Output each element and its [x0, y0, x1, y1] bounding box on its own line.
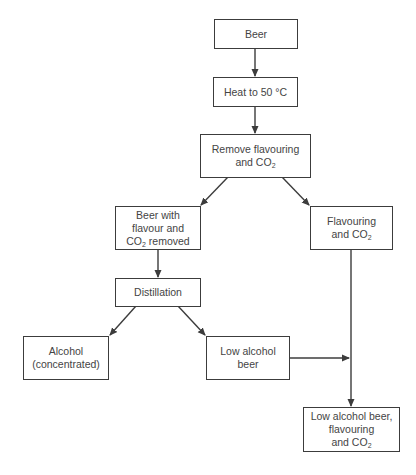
node-alcohol: Alcohol (concentrated) [23, 336, 109, 380]
node-final-line1: Low alcohol beer, [311, 410, 393, 423]
node-beer-removed-line3: CO2 removed [126, 235, 189, 248]
node-beer: Beer [214, 19, 298, 49]
node-flavouring: Flavouring and CO2 [310, 206, 393, 250]
node-remove-line2: and CO2 [212, 156, 300, 169]
node-heat: Heat to 50 °C [213, 77, 298, 107]
node-remove-line1: Remove flavouring [212, 143, 300, 156]
node-heat-label: Heat to 50 °C [224, 86, 287, 99]
arrow-distillation-to-low-alcohol-beer [178, 306, 205, 335]
node-beer-label: Beer [245, 28, 267, 41]
node-low-alcohol-beer: Low alcohol beer [206, 336, 290, 380]
arrow-distillation-to-alcohol [110, 306, 136, 335]
node-beer-removed-line1: Beer with [126, 209, 189, 222]
node-remove-flavouring: Remove flavouring and CO2 [200, 134, 311, 178]
node-low-alcohol-beer-line2: beer [220, 358, 275, 371]
node-beer-removed: Beer with flavour and CO2 removed [115, 206, 201, 250]
node-beer-removed-line2: flavour and [126, 222, 189, 235]
node-flavouring-line1: Flavouring [327, 215, 376, 228]
node-final-product: Low alcohol beer, flavouring and CO2 [303, 407, 400, 452]
node-distillation-label: Distillation [134, 286, 182, 299]
node-alcohol-line2: (concentrated) [32, 358, 100, 371]
node-alcohol-line1: Alcohol [32, 345, 100, 358]
arrow-remove-to-flavouring [282, 177, 309, 205]
node-final-line3: and CO2 [311, 436, 393, 449]
node-distillation: Distillation [115, 278, 201, 307]
node-flavouring-line2: and CO2 [327, 228, 376, 241]
node-low-alcohol-beer-line1: Low alcohol [220, 345, 275, 358]
node-final-line2: flavouring [311, 423, 393, 436]
arrow-remove-to-beer-removed [201, 177, 228, 205]
